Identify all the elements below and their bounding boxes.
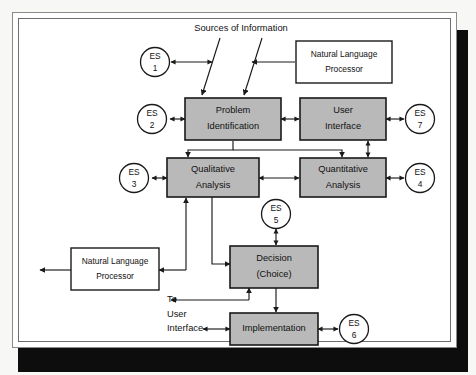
node-es1-number: 1 xyxy=(153,63,158,73)
node-es4-number: 4 xyxy=(418,179,423,189)
node-es7-label: ES xyxy=(414,108,426,118)
node-quantitative-analysis-line1: Quantitative xyxy=(318,164,368,174)
node-decision-line1: Decision xyxy=(256,253,292,263)
node-implementation-line1: Implementation xyxy=(242,323,306,333)
node-es1[interactable]: ES 1 xyxy=(141,48,170,77)
node-nlp-bottom-line1: Natural Language xyxy=(82,256,149,266)
node-es4-label: ES xyxy=(414,167,426,177)
node-qualitative-analysis-line1: Qualitative xyxy=(191,164,235,174)
node-qualitative-analysis[interactable]: Qualitative Analysis xyxy=(167,158,259,197)
node-user-interface-line1: User xyxy=(333,105,353,115)
label-to: To xyxy=(167,294,177,304)
node-problem-identification[interactable]: Problem Identification xyxy=(185,98,281,140)
node-decision-line2: (Choice) xyxy=(256,269,291,279)
node-es3-number: 3 xyxy=(132,179,137,189)
node-es4[interactable]: ES 4 xyxy=(406,164,435,193)
node-es5[interactable]: ES 5 xyxy=(262,200,291,229)
connector-sources-to-problem-a xyxy=(202,38,220,95)
node-implementation[interactable]: Implementation xyxy=(230,313,318,345)
connector-problem-to-analyses xyxy=(188,141,342,157)
node-es2-label: ES xyxy=(146,108,158,118)
node-user-interface[interactable]: User Interface xyxy=(300,98,386,140)
node-nlp-top[interactable]: Natural Language Processor xyxy=(296,41,392,83)
node-problem-identification-line2: Identification xyxy=(207,121,259,131)
label-interface: Interface xyxy=(167,323,203,333)
node-es5-number: 5 xyxy=(274,215,279,225)
node-nlp-top-line2: Processor xyxy=(325,64,363,74)
node-decision[interactable]: Decision (Choice) xyxy=(230,246,318,288)
flow-diagram: Sources of Information To User Interface… xyxy=(0,0,476,375)
node-nlp-bottom[interactable]: Natural Language Processor xyxy=(71,248,159,290)
diagram-canvas: Sources of Information To User Interface… xyxy=(0,0,476,375)
connector-qualitative-to-decision xyxy=(212,197,230,264)
node-nlp-bottom-line2: Processor xyxy=(96,271,134,281)
node-es6[interactable]: ES 6 xyxy=(340,315,369,344)
label-user: User xyxy=(167,309,187,319)
node-user-interface-line2: Interface xyxy=(325,121,361,131)
label-sources-of-information: Sources of Information xyxy=(194,23,288,33)
node-es3[interactable]: ES 3 xyxy=(120,164,149,193)
node-qualitative-analysis-line2: Analysis xyxy=(196,180,231,190)
node-nlp-top-line1: Natural Language xyxy=(311,49,378,59)
node-quantitative-analysis[interactable]: Quantitative Analysis xyxy=(300,158,386,197)
node-es2-number: 2 xyxy=(150,120,155,130)
connector-sources-to-problem-b xyxy=(244,38,262,95)
node-es1-label: ES xyxy=(149,51,161,61)
node-es7[interactable]: ES 7 xyxy=(406,105,435,134)
node-es6-label: ES xyxy=(348,318,360,328)
node-es5-label: ES xyxy=(270,203,282,213)
node-quantitative-analysis-line2: Analysis xyxy=(326,180,361,190)
node-es3-label: ES xyxy=(128,167,140,177)
node-es2[interactable]: ES 2 xyxy=(138,105,167,134)
node-es7-number: 7 xyxy=(418,120,423,130)
connector-decision-to-user-interface xyxy=(171,288,249,300)
node-es6-number: 6 xyxy=(352,330,357,340)
node-problem-identification-line1: Problem xyxy=(216,105,251,115)
